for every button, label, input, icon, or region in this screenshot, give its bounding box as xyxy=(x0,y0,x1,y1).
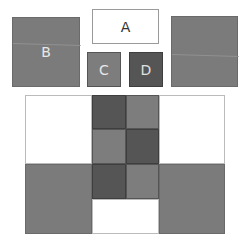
grid-cell-bottom-right xyxy=(159,164,225,234)
grid-cell-r4-middle xyxy=(92,199,159,234)
piece-a[interactable]: A xyxy=(92,9,159,44)
grid-cell-top-right xyxy=(159,95,225,164)
piece-b-label: B xyxy=(41,44,51,60)
grid-cell-r3-c2 xyxy=(126,164,159,199)
piece-c[interactable]: C xyxy=(87,52,121,87)
piece-c-label: C xyxy=(99,62,109,78)
grid-cell-r2-c1 xyxy=(92,129,126,164)
piece-a-label: A xyxy=(121,19,131,35)
piece-d-label: D xyxy=(141,62,152,78)
piece-e-crease xyxy=(172,54,239,57)
grid-cell-r2-c2 xyxy=(126,129,159,164)
grid-cell-top-left xyxy=(25,95,92,164)
piece-e[interactable] xyxy=(171,16,238,87)
grid-cell-r3-c1 xyxy=(92,164,126,199)
grid-cell-r1-c1 xyxy=(92,95,126,129)
piece-b[interactable]: B xyxy=(12,17,80,87)
grid-cell-r1-c2 xyxy=(126,95,159,129)
piece-d[interactable]: D xyxy=(129,52,163,87)
grid-cell-bottom-left xyxy=(25,164,92,234)
